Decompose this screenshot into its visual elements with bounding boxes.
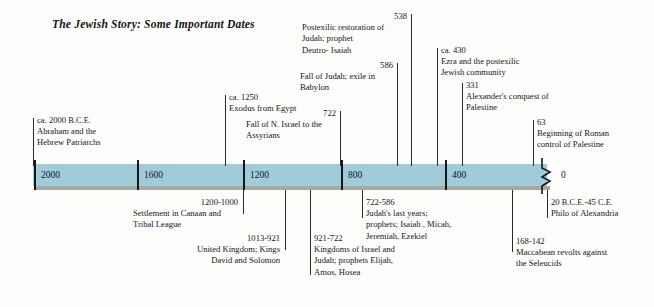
event-label-2000: ca. 2000 B.C.E. Abraham and the Hebrew P… — [37, 115, 129, 149]
figure-title: The Jewish Story: Some Important Dates — [52, 18, 255, 30]
leader-line-1250 — [225, 95, 226, 166]
axis-label-400: 400 — [452, 170, 466, 180]
event-desc-line: Kingdoms of Israel and — [314, 244, 418, 255]
timeline-figure: The Jewish Story: Some Important Dates 2… — [0, 0, 654, 307]
leader-line-63 — [533, 120, 534, 166]
timeline-bar-shadow — [36, 186, 550, 190]
event-desc-line: David and Solomon — [178, 255, 280, 266]
event-year-722-586: 722-586 — [366, 197, 476, 208]
event-desc-line: Assyrians — [246, 130, 336, 141]
event-desc-line: Hebrew Patriarchs — [37, 137, 129, 148]
event-label-430: ca. 430 Ezra and the postexilic Jewish c… — [441, 45, 549, 79]
event-year-430: ca. 430 — [441, 45, 549, 56]
event-desc-line: United Kingdom; Kings — [178, 244, 280, 255]
event-desc-line: control of Palestine — [537, 139, 642, 150]
event-label-722-586: 722-586 Judah's last years; prophets; Is… — [366, 197, 476, 242]
event-label-722: 722 Fall of N. Israel to the Assyrians — [246, 108, 336, 142]
axis-label-800: 800 — [348, 170, 362, 180]
event-year-538: 538 — [302, 11, 407, 22]
event-desc-line: Amos, Hosea — [314, 267, 418, 278]
event-desc-line: Judah's last years; — [366, 208, 476, 219]
timeline-bar — [33, 164, 547, 186]
event-desc-line: Palestine — [466, 102, 578, 113]
event-year-722: 722 — [246, 108, 336, 119]
event-label-168-142: 168-142 Maccabean revolts against the Se… — [516, 236, 634, 270]
event-desc-line: Beginning of Roman — [537, 128, 642, 139]
leader-line-722 — [340, 111, 341, 166]
axis-tick-1600 — [137, 160, 139, 190]
event-year-331: 331 — [466, 80, 578, 91]
event-desc-line: Ezra and the postexilic — [441, 56, 549, 67]
event-year-168-142: 168-142 — [516, 236, 634, 247]
event-label-1013-921: 1013-921 United Kingdom; Kings David and… — [178, 233, 280, 267]
leader-line-722-586 — [362, 190, 363, 218]
axis-label-1600: 1600 — [144, 170, 163, 180]
event-desc-line: Fall of Judah; exile in — [300, 71, 393, 82]
event-desc-line: prophets; Isaiah , Micah, — [366, 219, 476, 230]
event-year-45: -45 — [584, 197, 598, 207]
event-era-bce: B.C.E. — [562, 198, 585, 207]
axis-label-2000: 2000 — [41, 170, 60, 180]
event-label-538: 538 Postexilic restoration of Judah; pro… — [302, 11, 407, 56]
event-year-1200-1000: 1200-1000 — [133, 197, 238, 208]
event-desc-line: the Seleucids — [516, 258, 634, 269]
event-year-2000: ca. 2000 — [37, 115, 68, 125]
event-desc-line: Postexilic restoration of — [302, 22, 407, 33]
event-year-586: 586 — [300, 60, 393, 71]
event-desc-line: Philo of Alexandria — [551, 208, 651, 219]
leader-line-430 — [437, 48, 438, 166]
leader-line-538 — [411, 14, 412, 166]
axis-tick-400 — [445, 160, 447, 190]
event-era-ce: C.E. — [598, 198, 613, 207]
event-label-63: 63 Beginning of Roman control of Palesti… — [537, 117, 642, 151]
event-desc-line: Judah; prophets Elijah, — [314, 255, 418, 266]
event-desc-line: Maccabean revolts against — [516, 247, 634, 258]
axis-break-zigzag — [538, 158, 554, 194]
event-year-63: 63 — [537, 117, 642, 128]
leader-line-2000 — [33, 118, 34, 166]
leader-line-20bce — [547, 190, 548, 218]
event-desc-line: Alexander's conquest of — [466, 91, 578, 102]
event-label-331: 331 Alexander's conquest of Palestine — [466, 80, 578, 114]
axis-tick-800 — [341, 160, 343, 190]
leader-line-1013-921 — [285, 190, 286, 250]
leader-line-1200-1000 — [243, 190, 244, 214]
event-desc-line: Abraham and the — [37, 126, 129, 137]
event-desc-line: Babylon — [300, 82, 393, 93]
axis-tick-2000 — [34, 160, 36, 190]
event-desc-line: Fall of N. Israel to the — [246, 119, 336, 130]
axis-label-1200: 1200 — [250, 170, 269, 180]
event-era-bce: B.C.E. — [68, 116, 91, 125]
event-year-20: 20 — [551, 197, 562, 207]
event-desc-line: Deutro- Isaiah — [302, 45, 407, 56]
event-desc-line: Judah; prophet — [302, 33, 407, 44]
leader-line-331 — [462, 83, 463, 166]
event-desc-line: Settlement in Canaan and — [133, 208, 238, 219]
event-label-20bce-45ce: 20 B.C.E.-45 C.E. Philo of Alexandria — [551, 197, 651, 219]
event-desc-line: Jeremiah, Ezekiel — [366, 231, 476, 242]
event-desc-line: Jewish community — [441, 67, 549, 78]
event-year-1013-921: 1013-921 — [178, 233, 280, 244]
event-label-1200-1000: 1200-1000 Settlement in Canaan and Triba… — [133, 197, 238, 231]
event-year-1250: ca. 1250 — [229, 92, 329, 103]
event-desc-line: Tribal League — [133, 219, 238, 230]
axis-tick-1200 — [243, 160, 245, 190]
axis-label-0: 0 — [561, 170, 566, 180]
event-label-586: 586 Fall of Judah; exile in Babylon — [300, 60, 393, 94]
leader-line-921-722 — [310, 190, 311, 275]
leader-line-168-142 — [512, 190, 513, 252]
leader-line-586 — [397, 63, 398, 166]
